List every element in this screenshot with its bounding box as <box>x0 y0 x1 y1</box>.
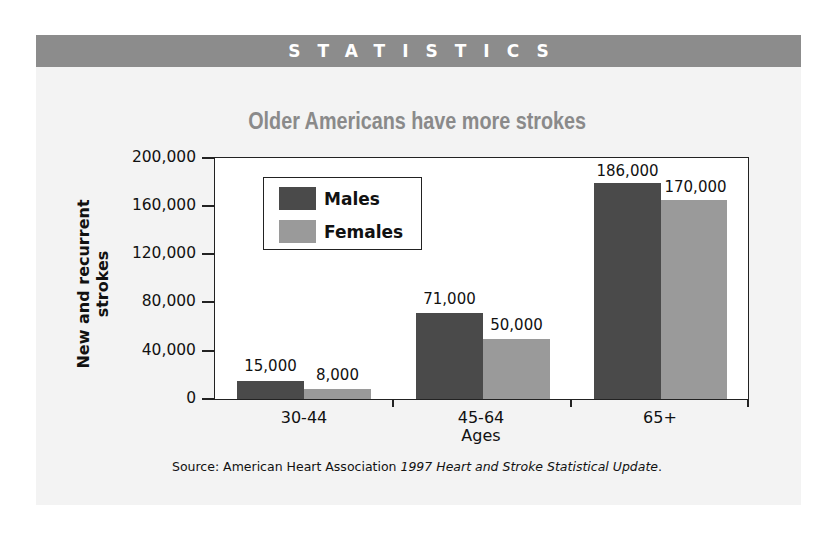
bar-value-label: 71,000 <box>411 290 488 308</box>
y-tick <box>202 398 214 400</box>
x-category-label: 45-64 <box>421 408 541 427</box>
legend-item-males: Males <box>279 187 380 210</box>
y-tick <box>202 157 214 159</box>
section-header: STATISTICS <box>36 35 801 67</box>
y-tick <box>202 253 214 255</box>
x-axis-label: Ages <box>421 426 541 445</box>
legend-label: Females <box>324 222 403 242</box>
y-tick <box>202 350 214 352</box>
y-tick-label: 120,000 <box>100 244 196 262</box>
legend-swatch-males <box>279 187 316 210</box>
x-category-label: 65+ <box>600 408 720 427</box>
bar-value-label: 170,000 <box>652 178 739 196</box>
bar-value-label: 8,000 <box>299 366 376 384</box>
bar-males-45-64 <box>416 313 483 399</box>
bar-males-30-44 <box>237 381 304 399</box>
legend-item-females: Females <box>279 220 403 243</box>
y-tick-label: 40,000 <box>100 341 196 359</box>
y-tick <box>202 205 214 207</box>
bar-females-45-64 <box>483 339 550 399</box>
y-tick-label: 0 <box>100 389 196 407</box>
x-tick <box>392 399 394 407</box>
x-category-label: 30-44 <box>244 408 364 427</box>
x-tick <box>747 399 749 407</box>
y-tick-label: 80,000 <box>100 292 196 310</box>
source-prefix: Source: American Heart Association <box>172 459 401 474</box>
y-tick-label: 160,000 <box>100 196 196 214</box>
y-tick-label: 200,000 <box>100 148 196 166</box>
source-suffix: . <box>658 459 662 474</box>
chart-title: Older Americans have more strokes <box>59 108 776 135</box>
bar-females-30-44 <box>304 389 371 399</box>
y-tick <box>202 301 214 303</box>
section-header-label: STATISTICS <box>271 41 565 61</box>
bar-males-65plus <box>594 183 661 399</box>
source-title: 1997 Heart and Stroke Statistical Update <box>400 459 658 474</box>
legend-label: Males <box>324 189 380 209</box>
bar-value-label: 50,000 <box>478 316 555 334</box>
legend-swatch-females <box>279 220 316 243</box>
x-tick <box>570 399 572 407</box>
legend: Males Females <box>263 177 422 250</box>
source-note: Source: American Heart Association 1997 … <box>0 459 834 474</box>
bar-value-label: 15,000 <box>232 357 309 375</box>
bar-females-65plus <box>661 200 727 399</box>
